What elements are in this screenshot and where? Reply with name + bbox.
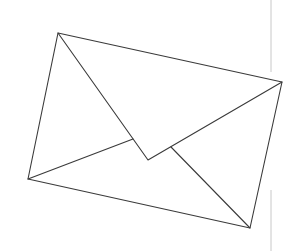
envelope-outline (28, 33, 282, 228)
drawing-canvas (0, 0, 297, 251)
envelope-illustration (0, 0, 297, 251)
envelope-right-fold (171, 147, 250, 228)
envelope-flap (58, 33, 282, 160)
envelope-left-fold (28, 139, 133, 179)
